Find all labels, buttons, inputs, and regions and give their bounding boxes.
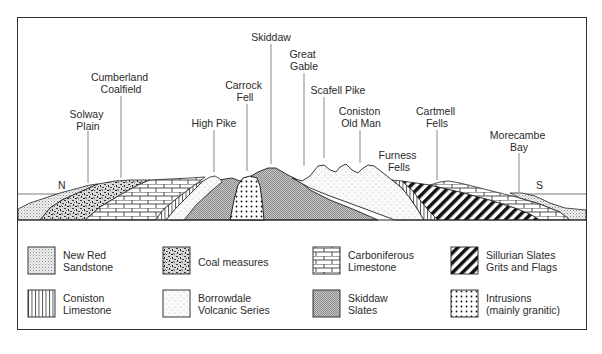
legend-label-carboniferous-limestone: Carboniferous Limestone bbox=[348, 249, 414, 273]
label-carrock-fell: Carrock Fell bbox=[225, 79, 265, 103]
legend-line: Volcanic Series bbox=[198, 304, 270, 316]
legend-swatch-coal-measures bbox=[163, 247, 190, 274]
legend-line: Sillurian Slates bbox=[486, 249, 557, 261]
label-skiddaw: Skiddaw bbox=[251, 31, 291, 43]
compass-south: S bbox=[536, 179, 543, 191]
legend-label-borrowdale-volcanic: Borrowdale Volcanic Series bbox=[198, 292, 270, 316]
legend-swatch-intrusions bbox=[451, 290, 478, 317]
legend-line: (mainly granitic) bbox=[486, 304, 560, 316]
label-great-gable: Great Gable bbox=[289, 48, 318, 72]
label-morecambe-bay: Morecambe Bay bbox=[490, 129, 548, 153]
legend-line: Slates bbox=[348, 304, 388, 316]
legend-label-new-red-sandstone: New Red Sandstone bbox=[63, 249, 113, 273]
legend-swatch-new-red-sandstone bbox=[28, 247, 55, 274]
legend-line: Sandstone bbox=[63, 261, 113, 273]
legend-swatch-skiddaw-slates bbox=[313, 290, 340, 317]
label-coniston-old-man: Coniston Old Man bbox=[339, 105, 383, 129]
label-cumberland-coalfield: Cumberland Coalfield bbox=[91, 71, 151, 95]
legend-line: Carboniferous bbox=[348, 249, 414, 261]
legend-label-coal-measures: Coal measures bbox=[198, 256, 269, 268]
legend-line: New Red bbox=[63, 249, 113, 261]
legend-swatch-carboniferous-limestone bbox=[313, 247, 340, 274]
legend-label-coniston-limestone: Coniston Limestone bbox=[63, 292, 111, 316]
legend-label-skiddaw-slates: Skiddaw Slates bbox=[348, 292, 388, 316]
legend-line: Skiddaw bbox=[348, 292, 388, 304]
legend-swatch-coniston-limestone bbox=[28, 290, 55, 317]
legend-line: Intrusions bbox=[486, 292, 560, 304]
legend-label-intrusions: Intrusions (mainly granitic) bbox=[486, 292, 560, 316]
label-furness-fells: Furness Fells bbox=[379, 149, 420, 173]
label-solway-plain: Solway Plain bbox=[70, 108, 107, 132]
legend-line: Grits and Flags bbox=[486, 261, 557, 273]
compass-north: N bbox=[58, 179, 66, 191]
label-high-pike: High Pike bbox=[192, 117, 237, 129]
legend-line: Limestone bbox=[63, 304, 111, 316]
legend-line: Coal measures bbox=[198, 256, 269, 268]
legend-line: Borrowdale bbox=[198, 292, 270, 304]
label-scafell-pike: Scafell Pike bbox=[311, 84, 366, 96]
legend-swatch-borrowdale-volcanic bbox=[163, 290, 190, 317]
legend-swatch-sillurian-slates bbox=[451, 247, 478, 274]
legend-line: Limestone bbox=[348, 261, 414, 273]
legend-line: Coniston bbox=[63, 292, 111, 304]
label-cartmell-fells: Cartmell Fells bbox=[416, 105, 458, 129]
legend-label-sillurian-slates: Sillurian Slates Grits and Flags bbox=[486, 249, 557, 273]
